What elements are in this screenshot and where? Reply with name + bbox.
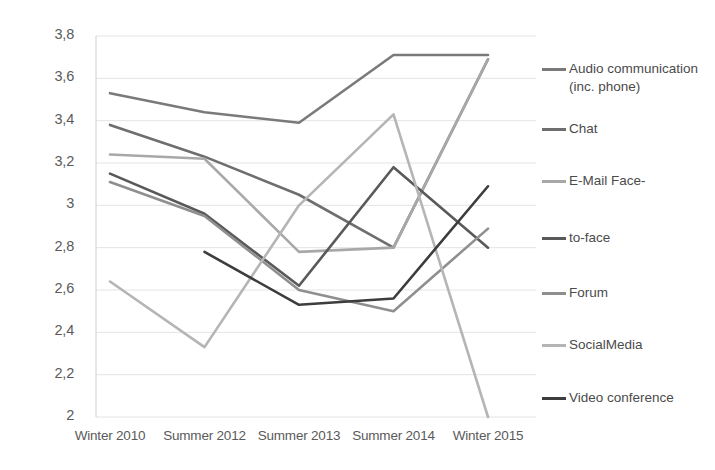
x-tick-label: Winter 2015 xyxy=(438,428,538,443)
series-line-socialmedia xyxy=(110,114,488,417)
legend-entry[interactable]: Forum xyxy=(542,284,711,302)
x-tick-label: Summer 2013 xyxy=(249,428,349,443)
legend-label: Forum xyxy=(569,284,711,302)
legend-entry[interactable]: E-Mail Face- xyxy=(542,172,711,190)
legend-swatch-icon xyxy=(542,128,566,131)
series-line-face-to-face xyxy=(110,167,488,286)
legend-label: Video conference xyxy=(569,389,711,407)
legend-swatch-icon xyxy=(542,180,566,183)
legend-swatch-icon xyxy=(542,292,566,295)
x-tick-label: Summer 2014 xyxy=(344,428,444,443)
series-line-audio-communication-inc-phone xyxy=(110,55,488,123)
legend-swatch-icon xyxy=(542,344,566,347)
legend-swatch-icon xyxy=(542,237,566,240)
x-tick-label: Winter 2010 xyxy=(60,428,160,443)
legend-entry[interactable]: Audio communication (inc. phone) xyxy=(542,60,711,96)
legend-swatch-icon xyxy=(542,397,566,400)
legend-label: SocialMedia xyxy=(569,336,711,354)
legend-label: Chat xyxy=(569,120,711,138)
series-line-forum xyxy=(110,182,488,311)
legend-entry[interactable]: SocialMedia xyxy=(542,336,711,354)
legend-entry[interactable]: Chat xyxy=(542,120,711,138)
series-line-chat xyxy=(110,59,488,247)
legend-swatch-icon xyxy=(542,68,566,71)
legend-label: to-face xyxy=(569,229,711,247)
series-line-e-mail xyxy=(110,59,488,252)
line-chart: 3,83,63,43,232,82,62,42,22 Winter 2010Su… xyxy=(0,0,715,470)
legend-entry[interactable]: to-face xyxy=(542,229,711,247)
legend-entry[interactable]: Video conference xyxy=(542,389,711,407)
x-tick-label: Summer 2012 xyxy=(155,428,255,443)
legend-label: Audio communication (inc. phone) xyxy=(569,60,711,96)
legend-label: E-Mail Face- xyxy=(569,172,711,190)
